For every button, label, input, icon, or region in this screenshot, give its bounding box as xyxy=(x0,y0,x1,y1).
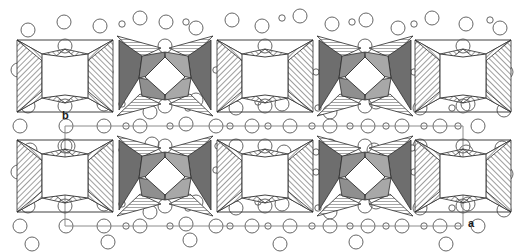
atom-small xyxy=(449,205,455,211)
atom-small xyxy=(279,15,285,21)
atom-large xyxy=(21,23,35,37)
atom-small xyxy=(119,21,125,27)
atom-small xyxy=(313,169,319,175)
atom-large-overlay xyxy=(58,39,72,53)
polyhedron-core xyxy=(42,54,88,98)
atom-large xyxy=(25,237,39,251)
atom-large xyxy=(189,21,203,35)
atom-large-overlay xyxy=(258,139,272,153)
atom-large xyxy=(179,117,193,131)
polyhedron-cluster-dark-upper-row-3 xyxy=(317,36,413,116)
polyhedron-cluster-dark-upper-row-1 xyxy=(117,36,213,116)
atom-large xyxy=(459,17,473,31)
atom-large xyxy=(93,19,107,33)
atom-large xyxy=(493,21,507,35)
atom-large xyxy=(391,21,405,35)
atom-small xyxy=(411,21,417,27)
atom-large xyxy=(273,237,287,251)
atom-large xyxy=(101,235,115,249)
polyhedron-cluster-hatched-upper-row-2 xyxy=(217,40,313,112)
atom-large-overlay xyxy=(158,99,172,113)
atom-small xyxy=(313,149,319,155)
atom-small xyxy=(183,19,189,25)
atom-large xyxy=(425,11,439,25)
crystal-structure-canvas xyxy=(0,0,520,252)
atom-large xyxy=(13,119,27,133)
atom-large xyxy=(183,233,197,247)
polyhedron-cluster-hatched-upper-row-0 xyxy=(17,40,113,112)
polyhedron-cluster-dark-lower-row-3 xyxy=(317,136,413,216)
atom-large-overlay xyxy=(158,139,172,153)
atom-large-overlay xyxy=(456,39,470,53)
polyhedron-core xyxy=(440,54,486,98)
atom-large xyxy=(133,11,147,25)
atom-large xyxy=(471,119,485,133)
atom-large-overlay xyxy=(258,39,272,53)
atom-large-overlay xyxy=(358,39,372,53)
atom-large xyxy=(359,13,373,27)
atom-large-overlay xyxy=(158,199,172,213)
atom-large xyxy=(349,235,363,249)
atom-large xyxy=(179,217,193,231)
atom-large xyxy=(255,19,269,33)
polyhedron-core xyxy=(242,54,288,98)
atom-large xyxy=(293,9,307,23)
atom-large xyxy=(13,219,27,233)
atom-large xyxy=(159,15,173,29)
atom-large xyxy=(439,237,453,251)
axis-label-b: b xyxy=(62,110,69,121)
axis-label-a: a xyxy=(468,218,474,229)
polyhedron-core xyxy=(242,154,288,198)
atom-small xyxy=(349,19,355,25)
polyhedron-cluster-dark-lower-row-1 xyxy=(117,136,213,216)
polyhedron-core xyxy=(42,154,88,198)
atom-large-overlay xyxy=(158,39,172,53)
atom-small xyxy=(313,69,319,75)
polyhedron-core xyxy=(440,154,486,198)
atom-layer-back xyxy=(11,9,513,251)
atom-small xyxy=(487,17,493,23)
atom-small xyxy=(449,105,455,111)
polyhedron-cluster-hatched-lower-row-2 xyxy=(217,140,313,212)
atom-large-overlay xyxy=(258,199,272,213)
atom-large-overlay xyxy=(258,99,272,113)
atom-large xyxy=(225,13,239,27)
atom-large xyxy=(57,15,71,29)
crystal-structure-figure: b a xyxy=(0,0,520,252)
atom-large xyxy=(325,17,339,31)
